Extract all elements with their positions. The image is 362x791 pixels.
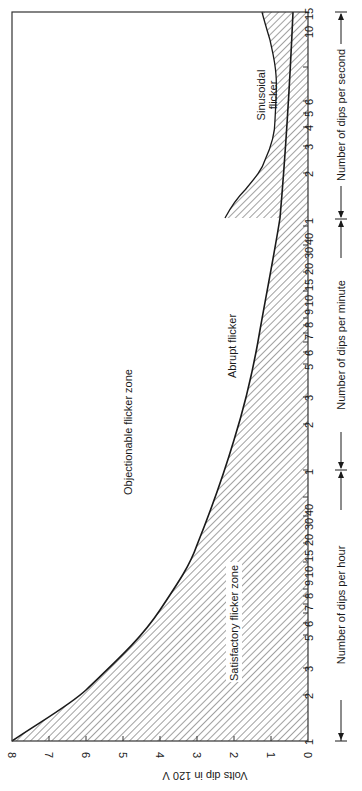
svg-text:2: 2 — [303, 171, 315, 177]
svg-text:20: 20 — [303, 534, 315, 546]
flicker-chart: 8 7 6 5 4 3 2 1 0 Volts dip in 120 V — [0, 0, 362, 791]
svg-text:7: 7 — [303, 605, 315, 611]
volt-tick-labels: 8 7 6 5 4 3 2 1 0 — [6, 752, 314, 758]
svg-text:4: 4 — [303, 125, 315, 131]
svg-text:6: 6 — [303, 621, 315, 627]
svg-text:5: 5 — [303, 111, 315, 117]
sinusoidal-cut — [225, 218, 280, 220]
svg-text:0: 0 — [302, 752, 314, 758]
svg-text:8: 8 — [6, 752, 18, 758]
svg-text:30: 30 — [303, 247, 315, 259]
svg-text:15: 15 — [303, 550, 315, 562]
svg-text:9: 9 — [303, 309, 315, 315]
svg-text:4: 4 — [154, 752, 166, 758]
svg-text:1: 1 — [303, 739, 315, 745]
sinusoidal-flicker-label-line2: flicker — [267, 80, 279, 109]
satisfactory-zone-label: Satisfactory flicker zone — [228, 565, 240, 681]
svg-text:10: 10 — [303, 26, 315, 38]
second-range-label: Number of dips per second — [335, 49, 347, 181]
svg-text:15: 15 — [303, 8, 315, 20]
sinusoidal-flicker-label-line1: Sinusoidal — [255, 70, 267, 121]
svg-text:5: 5 — [303, 635, 315, 641]
hour-range-label: Number of dips per hour — [335, 545, 347, 664]
svg-text:40: 40 — [303, 504, 315, 516]
svg-text:5: 5 — [117, 752, 129, 758]
svg-text:7: 7 — [43, 752, 55, 758]
svg-text:10: 10 — [303, 566, 315, 578]
svg-text:3: 3 — [303, 395, 315, 401]
minute-range-label: Number of dips per minute — [335, 280, 347, 410]
svg-text:40: 40 — [303, 233, 315, 245]
svg-text:3: 3 — [191, 752, 203, 758]
svg-text:3: 3 — [303, 144, 315, 150]
svg-text:1: 1 — [303, 469, 315, 475]
abrupt-flicker-label: Abrupt flicker — [226, 314, 238, 379]
svg-text:9: 9 — [303, 580, 315, 586]
svg-text:5: 5 — [303, 364, 315, 370]
svg-text:8: 8 — [303, 322, 315, 328]
svg-text:2: 2 — [228, 752, 240, 758]
svg-text:20: 20 — [303, 263, 315, 275]
svg-text:1: 1 — [303, 218, 315, 224]
svg-text:6: 6 — [303, 350, 315, 356]
svg-text:15: 15 — [303, 279, 315, 291]
svg-text:2: 2 — [303, 693, 315, 699]
svg-text:3: 3 — [303, 666, 315, 672]
svg-text:1: 1 — [265, 752, 277, 758]
volts-axis-title: Volts dip in 120 V — [162, 770, 248, 782]
svg-text:6: 6 — [303, 99, 315, 105]
objectionable-zone-label: Objectionable flicker zone — [122, 369, 134, 495]
svg-text:30: 30 — [303, 518, 315, 530]
svg-text:10: 10 — [303, 295, 315, 307]
svg-text:7: 7 — [303, 334, 315, 340]
svg-text:6: 6 — [80, 752, 92, 758]
svg-text:2: 2 — [303, 422, 315, 428]
svg-text:8: 8 — [303, 593, 315, 599]
